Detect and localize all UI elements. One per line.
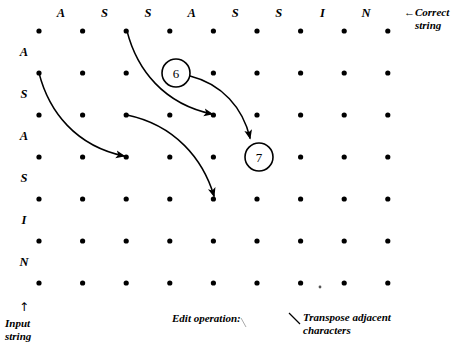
- input-string-line-1: Input: [5, 317, 30, 329]
- lattice-dot: [385, 28, 390, 33]
- lattice-dot: [167, 112, 172, 117]
- lattice-dot: [298, 28, 303, 33]
- transpose-line-2: characters: [303, 324, 391, 337]
- lattice-dot: [124, 196, 129, 201]
- grid-dot-layer: [36, 28, 390, 285]
- row-label-2: A: [17, 130, 31, 143]
- lattice-dot: [342, 70, 347, 75]
- lattice-dot: [254, 28, 259, 33]
- transpose-pointer-line: [289, 313, 300, 324]
- lattice-dot: [385, 154, 390, 159]
- lattice-node-6: 6: [162, 59, 190, 87]
- lattice-dot: [211, 154, 216, 159]
- lattice-dot: [385, 238, 390, 243]
- lattice-dot: [124, 154, 129, 159]
- edit-operation-tick: [241, 318, 246, 327]
- lattice-dot: [80, 280, 85, 285]
- lattice-dot: [385, 280, 390, 285]
- lattice-dot: [254, 238, 259, 243]
- correct-string-annotation: ←Correct string: [404, 6, 449, 32]
- lattice-dot: [167, 28, 172, 33]
- lattice-dot: [298, 154, 303, 159]
- column-label-0: A: [51, 7, 71, 20]
- lattice-dot: [385, 196, 390, 201]
- input-string-line-2: string: [5, 330, 31, 343]
- lattice-dot: [254, 112, 259, 117]
- lattice-node-7: 7: [245, 143, 273, 171]
- lattice-dot: [342, 238, 347, 243]
- lattice-dot: [36, 28, 41, 33]
- lattice-dot: [254, 70, 259, 75]
- input-string-annotation: Input string: [5, 317, 31, 343]
- correct-string-line-2: string: [404, 19, 449, 32]
- lattice-dot: [80, 112, 85, 117]
- lattice-dot: [298, 70, 303, 75]
- column-label-1: S: [94, 7, 114, 20]
- correct-string-line-1: ←Correct: [404, 6, 449, 18]
- lattice-dot: [385, 70, 390, 75]
- lattice-dot: [167, 238, 172, 243]
- lattice-dot: [124, 70, 129, 75]
- row-label-0: A: [17, 46, 31, 59]
- lattice-dot: [211, 70, 216, 75]
- arrow-node6-to-node7: [190, 76, 250, 138]
- lattice-dot: [298, 238, 303, 243]
- stray-ink-mark: [319, 286, 322, 289]
- lattice-dot: [124, 238, 129, 243]
- lattice-dot: [167, 196, 172, 201]
- edit-operation-annotation: Edit operation:: [172, 312, 241, 325]
- row-label-5: N: [17, 256, 31, 269]
- transpose-line-1: Transpose adjacent: [303, 311, 391, 323]
- lattice-dot: [167, 154, 172, 159]
- column-label-3: A: [182, 7, 202, 20]
- lattice-dot: [254, 280, 259, 285]
- column-label-2: S: [138, 7, 158, 20]
- node-label: 7: [256, 150, 263, 165]
- column-label-7: N: [356, 7, 376, 20]
- lattice-dot: [342, 196, 347, 201]
- lattice-dot: [167, 280, 172, 285]
- input-string-up-arrow-icon: ↑: [19, 301, 29, 313]
- lattice-dot: [36, 280, 41, 285]
- lattice-dot: [342, 112, 347, 117]
- lattice-dot: [80, 238, 85, 243]
- lattice-dot: [80, 70, 85, 75]
- lattice-dot: [342, 154, 347, 159]
- lattice-dot: [342, 28, 347, 33]
- lattice-dot: [124, 280, 129, 285]
- lattice-dot: [211, 196, 216, 201]
- column-label-4: S: [225, 7, 245, 20]
- lattice-dot: [80, 28, 85, 33]
- lattice-dot: [298, 196, 303, 201]
- lattice-dot: [254, 196, 259, 201]
- column-label-5: S: [269, 7, 289, 20]
- lattice-dot: [298, 112, 303, 117]
- edit-distance-diagram: 67 ASSASSIN ASASIN ←Correct string ↑ Inp…: [0, 0, 456, 354]
- row-label-1: S: [17, 88, 31, 101]
- lattice-dot: [80, 196, 85, 201]
- lattice-dot: [298, 280, 303, 285]
- lattice-dot: [211, 28, 216, 33]
- lattice-dot: [36, 154, 41, 159]
- lattice-dot: [385, 112, 390, 117]
- lattice-dot: [80, 154, 85, 159]
- edit-operation-arrow-layer: [39, 31, 250, 196]
- lattice-dot: [211, 280, 216, 285]
- lattice-dot: [36, 196, 41, 201]
- lattice-canvas: 67: [0, 0, 456, 354]
- lattice-dot: [211, 238, 216, 243]
- lattice-dot: [36, 112, 41, 117]
- column-label-6: I: [312, 7, 332, 20]
- transpose-annotation: Transpose adjacent characters: [303, 311, 391, 337]
- row-label-3: S: [17, 172, 31, 185]
- lattice-dot: [36, 238, 41, 243]
- row-label-4: I: [17, 214, 31, 227]
- lattice-dot: [342, 280, 347, 285]
- node-label: 6: [173, 66, 180, 81]
